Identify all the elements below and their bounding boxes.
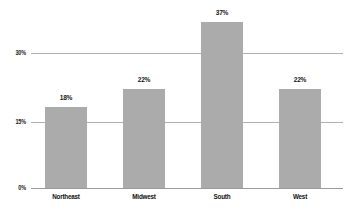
category-label-midwest: Midwest: [119, 193, 169, 201]
bar-value-west: 22%: [283, 76, 317, 84]
bar-northeast[interactable]: [45, 107, 87, 188]
bar-midwest[interactable]: [123, 89, 165, 188]
gridline-30: [31, 53, 343, 54]
category-label-west: West: [275, 193, 325, 201]
ytick-label-0: 0%: [0, 185, 26, 192]
ytick-label-30: 30%: [0, 50, 26, 57]
bar-value-northeast: 18%: [49, 94, 83, 102]
bar-value-south: 37%: [205, 9, 239, 17]
plot-area: 30% 15% 0% 18% 22% 37% 22% Northeast Mid…: [0, 0, 348, 220]
bar-chart: 30% 15% 0% 18% 22% 37% 22% Northeast Mid…: [0, 0, 348, 220]
axis-baseline: [31, 188, 343, 189]
bar-south[interactable]: [201, 22, 243, 189]
category-label-northeast: Northeast: [41, 193, 91, 201]
ytick-label-15: 15%: [0, 119, 26, 126]
bar-value-midwest: 22%: [127, 76, 161, 84]
bar-west[interactable]: [279, 89, 321, 188]
category-label-south: South: [197, 193, 247, 201]
